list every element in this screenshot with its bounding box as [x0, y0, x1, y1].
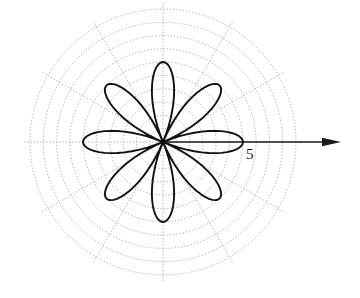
polar-plot-svg — [0, 0, 360, 298]
radial-tick-label-5: 5 — [246, 147, 254, 162]
figure-background — [0, 0, 360, 298]
